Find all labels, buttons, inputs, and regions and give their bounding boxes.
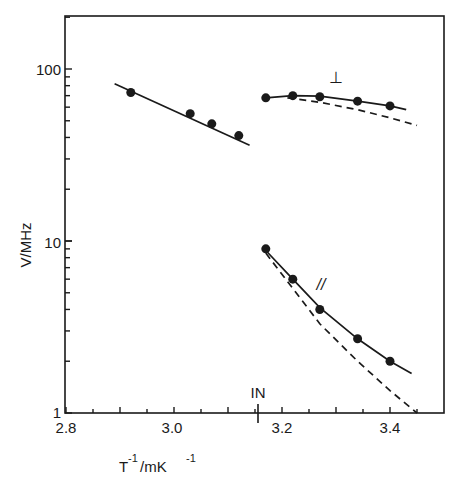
x-axis-label-sup: -1 xyxy=(186,452,196,464)
x-tick-label: 2.8 xyxy=(56,419,77,436)
data-point xyxy=(315,92,324,101)
data-point xyxy=(207,119,216,128)
x-axis-label-T: T xyxy=(119,458,128,475)
fit-curve xyxy=(266,251,412,374)
fit-curve xyxy=(266,96,406,110)
data-point xyxy=(386,357,395,366)
data-series xyxy=(115,84,417,413)
x-axis-label-sup: -1 xyxy=(128,452,138,464)
dashed-curve xyxy=(266,253,417,413)
x-tick-label: 3.0 xyxy=(162,419,183,436)
y-axis-label: V/MHz xyxy=(17,223,34,268)
data-point xyxy=(126,88,135,97)
perpendicular-label: ⊥ xyxy=(329,69,343,86)
y-tick-label: 1 xyxy=(53,404,61,421)
data-point xyxy=(288,91,297,100)
data-point xyxy=(261,93,270,102)
x-axis-label-unit: /mK xyxy=(140,458,167,475)
data-point xyxy=(288,275,297,284)
data-point xyxy=(315,305,324,314)
data-point xyxy=(353,334,362,343)
data-point xyxy=(353,97,362,106)
data-point xyxy=(234,131,243,140)
x-axis-label: T -1 /mK -1 xyxy=(119,452,196,475)
in-transition-label: IN xyxy=(251,384,266,401)
y-axis-ticks xyxy=(65,17,72,413)
data-point xyxy=(386,101,395,110)
x-tick-label: 3.4 xyxy=(380,419,401,436)
y-tick-label: 100 xyxy=(36,61,61,78)
chart-figure: 2.8 3.0 3.2 3.4 1 10 100 V/MHz T -1 /mK … xyxy=(0,0,457,498)
plot-frame xyxy=(65,16,444,413)
data-point xyxy=(186,109,195,118)
data-point xyxy=(261,244,270,253)
dashed-curve xyxy=(287,98,417,126)
x-tick-label: 3.2 xyxy=(272,419,293,436)
parallel-label: // xyxy=(316,276,327,293)
x-axis-ticks xyxy=(66,407,417,413)
y-tick-label: 10 xyxy=(44,234,61,251)
